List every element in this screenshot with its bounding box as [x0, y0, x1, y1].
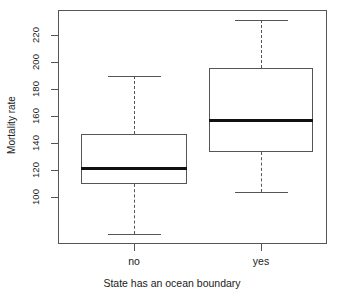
y-tick-mark-180 — [51, 89, 58, 90]
y-tick-mark-140 — [51, 143, 58, 144]
y-axis-title-text: Mortality rate — [6, 96, 17, 154]
y-tick-mark-120 — [51, 170, 58, 171]
x-axis-title: State has an ocean boundary — [0, 277, 344, 289]
y-tick-label-200: 200 — [22, 55, 48, 69]
y-tick-mark-220 — [51, 35, 58, 36]
whisker-upper-yes — [261, 20, 262, 68]
x-tick-mark-no — [134, 244, 135, 251]
y-tick-label-180: 180 — [22, 82, 48, 96]
box-no — [81, 134, 187, 184]
y-tick-label-100: 100 — [22, 190, 48, 204]
y-tick-label-120: 120 — [22, 163, 48, 177]
x-tick-label-yes: yes — [231, 255, 291, 267]
whisker-cap-lower-no — [108, 234, 161, 235]
whisker-cap-upper-yes — [235, 20, 288, 21]
y-tick-mark-200 — [51, 62, 58, 63]
whisker-cap-upper-no — [108, 76, 161, 77]
whisker-lower-no — [134, 184, 135, 234]
y-tick-label-160: 160 — [22, 109, 48, 123]
whisker-upper-no — [134, 76, 135, 134]
y-axis-title: Mortality rate — [0, 0, 22, 250]
median-yes — [209, 119, 313, 122]
boxplot-figure: Mortality rate 220 200 180 160 140 120 1… — [0, 0, 344, 299]
x-tick-label-no: no — [104, 255, 164, 267]
x-tick-mark-yes — [261, 244, 262, 251]
y-tick-label-140: 140 — [22, 136, 48, 150]
box-yes — [209, 68, 313, 152]
y-tick-label-220: 220 — [22, 28, 48, 42]
y-tick-mark-100 — [51, 197, 58, 198]
whisker-cap-lower-yes — [235, 192, 288, 193]
whisker-lower-yes — [261, 152, 262, 192]
y-tick-mark-160 — [51, 116, 58, 117]
median-no — [81, 167, 187, 170]
